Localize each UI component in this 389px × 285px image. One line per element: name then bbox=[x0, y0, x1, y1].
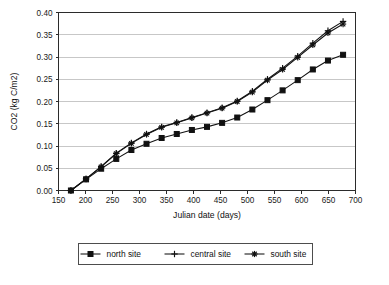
data-point-star bbox=[249, 89, 255, 95]
data-point-square bbox=[205, 124, 210, 129]
data-point-square bbox=[114, 156, 119, 161]
legend-label: north site bbox=[107, 249, 142, 259]
x-tick-label: 300 bbox=[133, 196, 147, 205]
y-axis-title: CO2 (kg C/m2) bbox=[9, 72, 19, 130]
data-point-star bbox=[159, 124, 165, 130]
data-point-square bbox=[265, 98, 270, 103]
co2-line-chart: 0.000.050.100.150.200.250.300.350.40 150… bbox=[0, 0, 389, 285]
x-axis-title: Julian date (days) bbox=[173, 210, 241, 220]
data-point-square bbox=[250, 107, 255, 112]
data-point-square bbox=[341, 52, 346, 57]
data-point-star bbox=[251, 251, 257, 257]
y-tick-label: 0.30 bbox=[37, 53, 53, 62]
data-point-star bbox=[310, 42, 316, 48]
x-tick-label: 200 bbox=[79, 196, 93, 205]
data-point-star bbox=[189, 115, 195, 121]
x-tick-label: 650 bbox=[322, 196, 336, 205]
data-point-square bbox=[129, 148, 134, 153]
y-tick-label: 0.15 bbox=[37, 120, 53, 129]
data-point-square bbox=[280, 88, 285, 93]
data-point-square bbox=[220, 120, 225, 125]
data-point-star bbox=[340, 21, 346, 27]
y-tick-label: 0.40 bbox=[37, 9, 53, 18]
data-point-star bbox=[113, 150, 119, 156]
x-tick-label: 450 bbox=[214, 196, 228, 205]
data-point-square bbox=[310, 67, 315, 72]
x-tick-label: 350 bbox=[160, 196, 174, 205]
data-point-star bbox=[83, 176, 89, 182]
x-tick-label: 150 bbox=[52, 196, 66, 205]
data-point-star bbox=[295, 54, 301, 60]
x-tick-label: 700 bbox=[349, 196, 363, 205]
legend-label: south site bbox=[271, 249, 307, 259]
data-point-star bbox=[264, 77, 270, 83]
data-point-star bbox=[68, 187, 74, 193]
data-point-square bbox=[159, 135, 164, 140]
chart-figure: 0.000.050.100.150.200.250.300.350.40 150… bbox=[0, 0, 389, 285]
data-point-star bbox=[204, 110, 210, 116]
chart-legend: north sitecentral sitesouth site bbox=[79, 244, 313, 265]
y-tick-label: 0.25 bbox=[37, 75, 53, 84]
data-point-square bbox=[144, 141, 149, 146]
data-point-star bbox=[174, 120, 180, 126]
y-tick-label: 0.35 bbox=[37, 31, 53, 40]
data-point-square bbox=[174, 131, 179, 136]
data-point-square bbox=[295, 78, 300, 83]
legend-label: central site bbox=[191, 249, 232, 259]
y-tick-label: 0.10 bbox=[37, 142, 53, 151]
data-point-star bbox=[219, 105, 225, 111]
data-point-square bbox=[189, 127, 194, 132]
data-point-star bbox=[280, 66, 286, 72]
data-point-square bbox=[88, 252, 93, 257]
data-point-star bbox=[143, 131, 149, 137]
y-tick-labels: 0.000.050.100.150.200.250.300.350.40 bbox=[37, 9, 53, 196]
data-point-star bbox=[234, 98, 240, 104]
x-tick-label: 550 bbox=[268, 196, 282, 205]
x-tick-label: 600 bbox=[295, 196, 309, 205]
data-point-star bbox=[98, 164, 104, 170]
data-point-square bbox=[325, 58, 330, 63]
data-point-square bbox=[235, 115, 240, 120]
y-tick-label: 0.20 bbox=[37, 98, 53, 107]
data-point-star bbox=[325, 30, 331, 36]
x-tick-label: 400 bbox=[187, 196, 201, 205]
x-tick-label: 500 bbox=[241, 196, 255, 205]
y-tick-label: 0.00 bbox=[37, 187, 53, 196]
x-tick-label: 250 bbox=[106, 196, 120, 205]
y-tick-label: 0.05 bbox=[37, 164, 53, 173]
data-point-star bbox=[128, 140, 134, 146]
